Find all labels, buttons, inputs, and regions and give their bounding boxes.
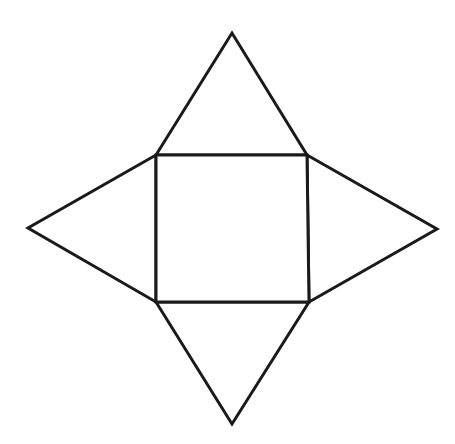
triangle-face-left [28, 155, 156, 302]
pyramid-net-diagram [0, 0, 455, 444]
triangle-face-top [156, 33, 307, 155]
triangle-face-bottom [156, 302, 309, 424]
triangle-face-right [307, 155, 437, 302]
square-base [156, 155, 309, 302]
